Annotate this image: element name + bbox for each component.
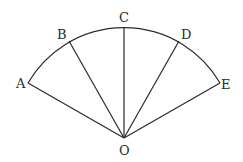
radius-OE [124, 83, 220, 138]
label-O: O [119, 143, 130, 158]
label-E: E [221, 77, 231, 92]
label-B: B [57, 27, 67, 42]
label-D: D [181, 27, 191, 42]
diagram-svg: A B C D E O [0, 0, 243, 162]
label-A: A [15, 76, 26, 91]
radius-OB [69, 41, 124, 138]
sector-diagram: A B C D E O [0, 0, 243, 162]
radius-OD [124, 41, 179, 138]
radius-OA [28, 83, 124, 138]
label-C: C [119, 10, 129, 25]
